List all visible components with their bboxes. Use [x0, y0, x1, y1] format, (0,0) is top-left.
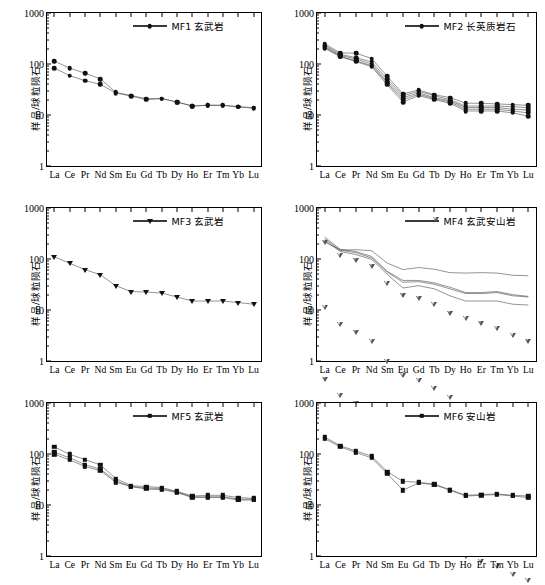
plot-area: 1000100101LaCePrNdSmEuGdTbDyHoErTmYbLuMF…	[316, 12, 537, 167]
x-axis-tick-label: Er	[477, 556, 486, 570]
x-axis-tick-label: Pr	[352, 166, 361, 180]
data-point-marker	[52, 59, 57, 64]
data-point-marker	[401, 100, 406, 105]
data-point-marker	[236, 498, 240, 502]
data-point-marker	[159, 96, 164, 101]
y-axis-tick-label: 1000	[24, 398, 47, 409]
x-axis-tick-label: Ce	[335, 556, 346, 570]
x-axis-tick-label: Gd	[140, 556, 152, 570]
data-point-marker	[220, 299, 226, 304]
ree-spider-diagram-figure: 样品/球粒陨石1000100101LaCePrNdSmEuGdTbDyHoErT…	[0, 0, 545, 585]
x-axis-tick-label: Ho	[460, 166, 472, 180]
y-axis-tick-label: 1000	[294, 8, 317, 19]
x-axis-tick-label: Tm	[216, 166, 229, 180]
data-point-marker	[478, 321, 484, 326]
data-point-marker	[401, 479, 405, 483]
chart-panel-mf2: 样品/球粒陨石1000100101LaCePrNdSmEuGdTbDyHoErT…	[272, 0, 545, 195]
x-axis-tick-label: Nd	[366, 166, 378, 180]
legend-line-swatch	[133, 415, 167, 416]
data-point-marker	[83, 457, 87, 461]
series-lines	[317, 13, 536, 166]
data-point-marker	[369, 65, 374, 70]
data-point-marker	[251, 498, 255, 502]
x-axis-tick-label: Tb	[429, 556, 440, 570]
data-point-marker	[416, 481, 420, 485]
legend-line-swatch	[133, 25, 167, 26]
chart-panel-mf6: 样品/球粒陨石1000100101LaCePrNdSmEuGdTbDyHoErT…	[272, 390, 545, 585]
y-axis-tick-label: 10	[34, 500, 47, 511]
legend-label: MF4 玄武安山岩	[444, 214, 517, 228]
data-point-marker	[235, 301, 241, 306]
x-axis-tick-label: Ce	[64, 166, 75, 180]
legend-label: MF2 长英质岩石	[444, 19, 517, 33]
x-axis-tick-label: Lu	[523, 361, 534, 375]
data-point-marker	[221, 495, 225, 499]
y-axis-tick-label: 100	[299, 254, 317, 265]
series-lines	[47, 403, 261, 556]
x-axis-tick-label: Tb	[156, 556, 167, 570]
plot-area: 1000100101LaCePrNdSmEuGdTbDyHoErTmYbLuMF…	[46, 402, 262, 557]
y-axis-tick-label: 10	[34, 305, 47, 316]
data-point-marker	[526, 495, 530, 499]
y-axis-tick-label: 1000	[294, 203, 317, 214]
x-axis-tick-label: Ho	[186, 166, 198, 180]
x-axis-tick-label: Pr	[81, 166, 90, 180]
data-point-marker	[68, 458, 72, 462]
x-axis-tick-label: Gd	[140, 166, 152, 180]
data-point-marker	[129, 484, 133, 488]
legend-line-swatch	[405, 220, 439, 221]
x-axis-tick-label: Yb	[232, 556, 244, 570]
x-axis-tick-label: Tm	[216, 556, 229, 570]
series-line	[325, 241, 529, 306]
data-point-marker	[322, 46, 327, 51]
data-point-marker	[143, 290, 149, 295]
x-axis-tick-label: Lu	[523, 556, 534, 570]
legend: MF6 安山岩	[405, 409, 497, 423]
x-axis-tick-label: Dy	[444, 556, 456, 570]
x-axis-tick-label: Tb	[156, 361, 167, 375]
legend-line-swatch	[405, 415, 439, 416]
x-axis-tick-label: Er	[203, 361, 212, 375]
data-point-marker	[494, 326, 500, 331]
x-axis-tick-label: Lu	[248, 556, 259, 570]
legend-marker	[147, 414, 151, 418]
series-line	[54, 61, 253, 107]
x-axis-tick-label: Er	[203, 166, 212, 180]
data-point-marker	[251, 302, 257, 307]
y-axis-tick-label: 100	[299, 59, 317, 70]
data-point-marker	[52, 445, 56, 449]
legend-marker	[419, 24, 424, 29]
x-axis-tick-label: Sm	[109, 361, 122, 375]
data-point-marker	[416, 378, 422, 383]
x-axis-tick-label: Nd	[366, 361, 378, 375]
series-line	[54, 257, 253, 304]
x-axis-tick-label: Er	[477, 361, 486, 375]
x-axis-tick-label: Sm	[109, 556, 122, 570]
x-axis-tick-label: Tm	[216, 361, 229, 375]
x-axis-tick-label: Er	[203, 556, 212, 570]
y-axis-tick-label: 10	[304, 500, 317, 511]
data-point-marker	[97, 273, 103, 278]
data-point-marker	[52, 452, 56, 456]
x-axis-tick-label: Ce	[64, 361, 75, 375]
chart-panel-mf5: 样品/球粒陨石1000100101LaCePrNdSmEuGdTbDyHoErT…	[0, 390, 272, 585]
data-point-marker	[526, 114, 531, 119]
data-point-marker	[144, 487, 148, 491]
x-axis-tick-label: Gd	[413, 556, 425, 570]
data-point-marker	[354, 450, 358, 454]
x-axis-tick-label: Pr	[81, 361, 90, 375]
data-point-marker	[83, 78, 88, 83]
data-point-marker	[448, 101, 453, 106]
x-axis-tick-label: Sm	[381, 166, 394, 180]
x-axis-tick-label: Tb	[156, 166, 167, 180]
data-point-marker	[369, 456, 373, 460]
data-point-marker	[369, 339, 375, 344]
data-point-marker	[463, 316, 469, 321]
x-axis-tick-label: Pr	[81, 556, 90, 570]
data-point-marker	[353, 258, 359, 263]
legend: MF2 长英质岩石	[405, 19, 517, 33]
data-point-marker	[354, 59, 359, 64]
data-point-marker	[83, 464, 87, 468]
y-axis-tick-label: 1000	[24, 8, 47, 19]
y-axis-tick-label: 1	[39, 356, 47, 367]
